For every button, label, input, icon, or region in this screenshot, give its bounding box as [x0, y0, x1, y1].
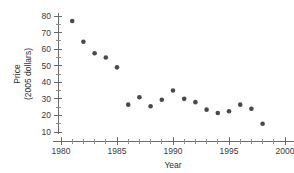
y-axis-title-line2: (2005 dollars) [23, 48, 33, 100]
x-tick-label: 1995 [220, 146, 239, 156]
y-tick-label: 80 [42, 11, 52, 21]
data-points [70, 19, 265, 126]
y-axis: 1020304050607080 [42, 11, 62, 137]
y-tick-label: 20 [42, 110, 52, 120]
data-point [126, 102, 131, 107]
chart-canvas: 1020304050607080 19801985199019952000 Ye… [0, 0, 294, 173]
data-point [148, 104, 153, 109]
data-point [115, 65, 120, 70]
data-point [104, 55, 109, 60]
data-point [182, 97, 187, 102]
data-point [216, 111, 221, 116]
x-tick-label: 1980 [52, 146, 71, 156]
data-point [227, 109, 232, 114]
y-tick-label: 30 [42, 94, 52, 104]
y-tick-label: 60 [42, 44, 52, 54]
y-tick-label: 50 [42, 61, 52, 71]
x-axis-title: Year [164, 160, 181, 170]
data-point [260, 121, 265, 126]
data-point [92, 51, 97, 56]
data-point [238, 102, 243, 107]
y-tick-label: 70 [42, 28, 52, 38]
data-point [160, 97, 165, 102]
y-tick-label: 40 [42, 77, 52, 87]
data-point [81, 39, 86, 44]
data-point [171, 88, 176, 93]
y-axis-title-line1: Price [12, 64, 22, 84]
data-point [204, 107, 209, 112]
data-point [249, 107, 254, 112]
y-tick-label: 10 [42, 127, 52, 137]
x-tick-label: 1985 [108, 146, 127, 156]
data-point [70, 19, 75, 24]
data-point [193, 100, 198, 105]
scatter-chart-figure: 1020304050607080 19801985199019952000 Ye… [0, 0, 294, 173]
x-tick-label: 1990 [164, 146, 183, 156]
x-tick-label: 2000 [276, 146, 294, 156]
data-point [137, 95, 142, 100]
x-axis: 19801985199019952000 [52, 137, 294, 156]
